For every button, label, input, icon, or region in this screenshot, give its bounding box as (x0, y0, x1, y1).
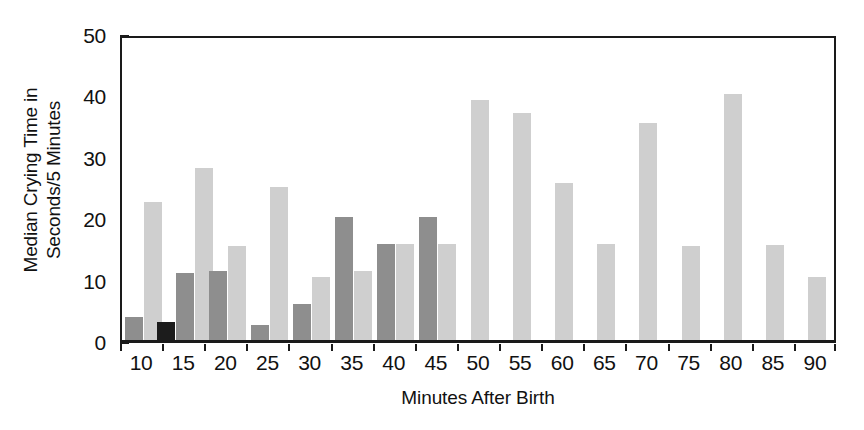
x-axis-tick-mark (246, 344, 248, 351)
x-axis-tick-mark (794, 344, 796, 351)
plot-area (120, 36, 836, 343)
y-axis-tick-label: 20 (62, 209, 106, 230)
x-axis-tick-label: 35 (329, 352, 375, 373)
x-axis-tick-label: 85 (750, 352, 796, 373)
x-axis-tick-mark (668, 344, 670, 351)
bar (125, 317, 143, 340)
x-axis-tick-label: 50 (455, 352, 501, 373)
bar (471, 100, 489, 340)
x-axis-tick-mark (752, 344, 754, 351)
x-axis-tick-label: 90 (792, 352, 838, 373)
bar (766, 245, 784, 340)
x-axis-tick-mark (373, 344, 375, 351)
x-axis-tick-label: 20 (202, 352, 248, 373)
bar (438, 244, 456, 340)
bar (228, 246, 246, 340)
bar (354, 271, 372, 340)
x-axis-tick-mark (457, 344, 459, 351)
y-axis-title: Median Crying Time in Seconds/5 Minutes (14, 15, 70, 345)
bar (639, 123, 657, 340)
x-axis-tick-label: 45 (413, 352, 459, 373)
x-axis-tick-mark (834, 344, 836, 351)
bar (513, 113, 531, 340)
bar (724, 94, 742, 340)
bar (682, 246, 700, 340)
x-axis-tick-mark (120, 344, 122, 351)
bar (555, 183, 573, 340)
x-axis-tick-label: 75 (666, 352, 712, 373)
bar (808, 277, 826, 340)
x-axis-tick-label: 25 (244, 352, 290, 373)
bar (312, 277, 330, 340)
y-axis-tick-label: 10 (62, 271, 106, 292)
bar (157, 322, 175, 340)
y-axis-tick-label: 30 (62, 148, 106, 169)
bar-series-container (122, 38, 834, 340)
bar (597, 244, 615, 340)
x-axis-tick-mark (625, 344, 627, 351)
x-axis-tick-label: 70 (623, 352, 669, 373)
y-axis-tick-label: 50 (62, 25, 106, 46)
bar (176, 273, 194, 340)
x-axis-title: Minutes After Birth (120, 387, 836, 409)
x-axis-tick-mark (710, 344, 712, 351)
bar (335, 217, 353, 340)
y-axis-tick-label: 40 (62, 86, 106, 107)
x-axis-tick-mark (204, 344, 206, 351)
x-axis-tick-mark (583, 344, 585, 351)
x-axis-tick-label: 30 (287, 352, 333, 373)
x-axis-tick-label: 40 (371, 352, 417, 373)
bar (209, 271, 227, 340)
bar (270, 187, 288, 341)
y-axis-title-line-1: Median Crying Time in (19, 88, 42, 273)
x-axis-tick-label: 55 (497, 352, 543, 373)
y-axis-title-line-2: Seconds/5 Minutes (42, 101, 65, 259)
x-axis-tick-label: 10 (118, 352, 164, 373)
x-axis-tick-mark (162, 344, 164, 351)
bar (419, 217, 437, 340)
x-axis-tick-mark (499, 344, 501, 351)
x-axis-tick-label: 65 (581, 352, 627, 373)
y-axis-tick-label: 0 (62, 332, 106, 353)
bar (251, 325, 269, 340)
x-axis-tick-label: 15 (160, 352, 206, 373)
x-axis-tick-mark (288, 344, 290, 351)
x-axis-tick-label: 80 (708, 352, 754, 373)
bar (377, 244, 395, 340)
bar (293, 304, 311, 340)
x-axis-tick-mark (415, 344, 417, 351)
x-axis-tick-mark (541, 344, 543, 351)
bar (396, 244, 414, 340)
x-axis-tick-mark (331, 344, 333, 351)
bar (144, 202, 162, 340)
x-axis-tick-label: 60 (539, 352, 585, 373)
bar-chart-figure: Median Crying Time in Seconds/5 Minutes … (0, 0, 864, 430)
